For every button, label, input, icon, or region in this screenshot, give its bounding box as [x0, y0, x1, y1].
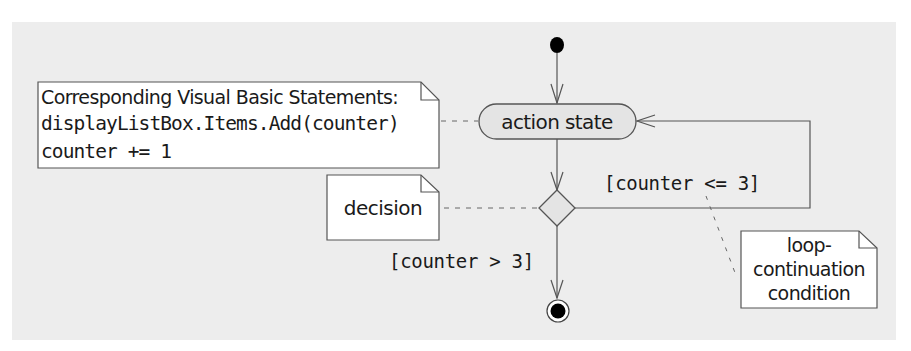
transition-decision-to-final	[551, 226, 563, 298]
initial-state-node	[550, 37, 564, 53]
decision-note-text: decision	[344, 196, 422, 220]
guard-loop-condition: [counter <= 3]	[604, 172, 760, 194]
code-line-1: displayListBox.Items.Add(counter)	[41, 110, 439, 138]
code-line-2: counter += 1	[41, 138, 439, 166]
loop-note-line-3: condition	[741, 281, 877, 305]
code-note-heading: Corresponding Visual Basic Statements:	[41, 84, 439, 110]
loop-note-line-2: continuation	[741, 257, 877, 281]
decision-node	[539, 190, 575, 226]
decision-note: decision	[327, 175, 439, 240]
transition-action-to-decision	[551, 139, 563, 190]
final-state-node	[547, 300, 569, 322]
code-note: Corresponding Visual Basic Statements: d…	[38, 82, 439, 168]
action-state-label: action state	[478, 105, 636, 139]
guard-exit-condition: [counter > 3]	[389, 250, 534, 272]
transition-initial-to-action	[551, 53, 563, 103]
loop-note-line-1: loop-	[741, 233, 877, 257]
loop-continuation-note: loop- continuation condition	[741, 231, 877, 308]
